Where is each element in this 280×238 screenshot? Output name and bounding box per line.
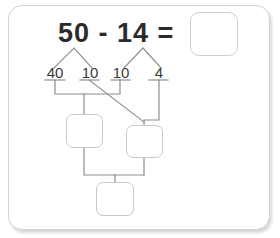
part-number-4: 4 [144, 64, 174, 81]
answer-box[interactable] [190, 12, 238, 56]
equation-text: 50 - 14 = [58, 18, 174, 49]
part-number-10b: 10 [106, 64, 136, 81]
worksheet-canvas: 50 - 14 = 40 1 [0, 0, 280, 238]
left-partial-box[interactable] [66, 114, 103, 148]
right-partial-box[interactable] [126, 125, 163, 158]
part-number-10a: 10 [75, 64, 105, 81]
result-box[interactable] [96, 182, 134, 216]
part-number-40: 40 [40, 64, 70, 81]
